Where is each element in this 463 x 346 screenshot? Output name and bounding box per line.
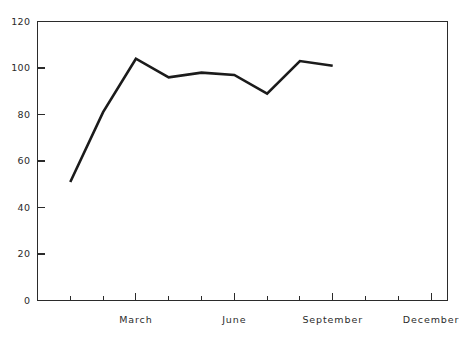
y-tick-label: 40 <box>18 202 31 213</box>
x-axis-ticks: MarchJuneSeptemberDecember <box>119 293 459 325</box>
axis-left-top <box>38 22 448 301</box>
y-tick-label: 120 <box>11 16 30 27</box>
y-tick-label: 80 <box>18 109 31 120</box>
x-tick-label: September <box>302 314 363 325</box>
axis-frame <box>38 22 448 301</box>
data-series-line-1 <box>70 59 332 182</box>
x-tick-label: March <box>119 314 152 325</box>
y-tick-label: 100 <box>11 62 30 73</box>
x-tick-label: December <box>403 314 459 325</box>
y-axis-ticks: 020406080100120 <box>11 16 44 306</box>
y-tick-label: 0 <box>24 295 30 306</box>
x-tick-label: June <box>221 314 246 325</box>
axis-bottom-right <box>38 22 448 301</box>
chart-canvas: 020406080100120MarchJuneSeptemberDecembe… <box>0 0 463 346</box>
y-tick-label: 60 <box>18 155 31 166</box>
y-tick-label: 20 <box>18 248 31 259</box>
line-chart: 020406080100120MarchJuneSeptemberDecembe… <box>0 0 463 346</box>
